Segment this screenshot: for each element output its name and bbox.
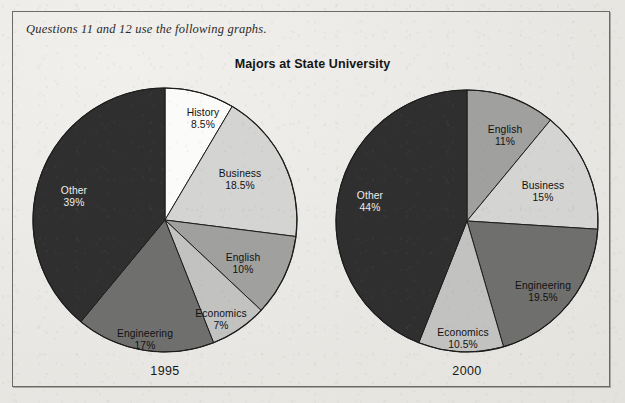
slice-percent: 10% (226, 264, 260, 276)
slice-percent: 10.5% (437, 339, 488, 351)
pie-2000-label-other: Other44% (357, 190, 383, 214)
worksheet-page: Questions 11 and 12 use the following gr… (0, 0, 625, 403)
slice-name: English (226, 252, 260, 263)
slice-name: Other (357, 190, 383, 201)
slice-name: Engineering (515, 280, 571, 291)
slice-percent: 18.5% (219, 180, 262, 192)
pie-1995-label-history: History8.5% (187, 107, 220, 131)
pie-1995-label-other: Other39% (61, 185, 87, 209)
slice-percent: 44% (357, 202, 383, 214)
slice-percent: 7% (195, 320, 246, 332)
slice-percent: 8.5% (187, 119, 220, 131)
slice-name: English (488, 124, 522, 135)
pie-1995-label-engineering: Engineering17% (117, 328, 173, 352)
pie-1995-label-business: Business18.5% (219, 168, 262, 192)
slice-name: Economics (437, 327, 488, 338)
slice-name: Business (522, 180, 565, 191)
year-label-1995: 1995 (105, 364, 225, 378)
slice-percent: 39% (61, 197, 87, 209)
chart-title: Majors at State University (0, 57, 625, 71)
pie-2000-label-english: English11% (488, 124, 522, 148)
pie-2000-label-business: Business15% (522, 180, 565, 204)
slice-name: History (187, 107, 220, 118)
slice-percent: 15% (522, 192, 565, 204)
slice-name: Economics (195, 308, 246, 319)
slice-percent: 11% (488, 136, 522, 148)
pie-1995-label-english: English10% (226, 252, 260, 276)
year-label-2000: 2000 (407, 364, 527, 378)
slice-name: Engineering (117, 328, 173, 339)
pie-1995-label-economics: Economics7% (195, 308, 246, 332)
slice-name: Other (61, 185, 87, 196)
pie-2000-label-engineering: Engineering19.5% (515, 280, 571, 304)
question-prompt: Questions 11 and 12 use the following gr… (26, 22, 267, 37)
slice-percent: 19.5% (515, 292, 571, 304)
slice-name: Business (219, 168, 262, 179)
pie-chart-2000 (334, 88, 600, 354)
pie-2000-label-economics: Economics10.5% (437, 327, 488, 351)
slice-percent: 17% (117, 340, 173, 352)
pie-chart-1995 (31, 86, 299, 354)
